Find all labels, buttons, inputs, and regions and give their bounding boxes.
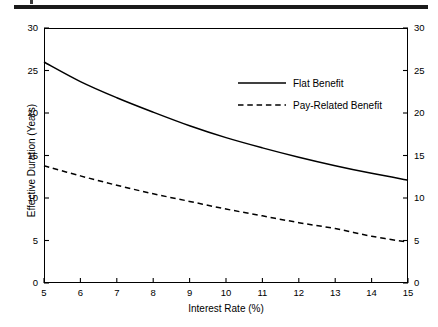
y-tick-label-right-30: 30 bbox=[414, 23, 438, 33]
x-tick-label-15: 15 bbox=[396, 288, 420, 298]
y-tick-label-right-10: 10 bbox=[414, 193, 438, 203]
y-tick-label-left-0: 0 bbox=[8, 278, 38, 288]
x-tick-label-13: 13 bbox=[323, 288, 347, 298]
y-tick-label-left-25: 25 bbox=[8, 66, 38, 76]
y-tick-label-right-0: 0 bbox=[414, 278, 438, 288]
legend-item-flat-benefit: Flat Benefit bbox=[238, 72, 398, 94]
x-tick-label-10: 10 bbox=[214, 288, 238, 298]
x-tick-label-6: 6 bbox=[68, 288, 92, 298]
legend-dashed-line-icon bbox=[238, 100, 286, 110]
chart-legend: Flat Benefit Pay-Related Benefit bbox=[238, 72, 398, 116]
y-tick-label-right-20: 20 bbox=[414, 108, 438, 118]
x-tick-label-11: 11 bbox=[250, 288, 274, 298]
legend-item-pay-related-benefit: Pay-Related Benefit bbox=[238, 94, 398, 116]
legend-label-flat-benefit: Flat Benefit bbox=[293, 78, 344, 89]
legend-label-pay-related-benefit: Pay-Related Benefit bbox=[293, 100, 382, 111]
x-tick-label-14: 14 bbox=[360, 288, 384, 298]
y-tick-label-right-15: 15 bbox=[414, 151, 438, 161]
x-tick-label-7: 7 bbox=[105, 288, 129, 298]
x-tick-label-8: 8 bbox=[141, 288, 165, 298]
y-tick-label-left-30: 30 bbox=[8, 23, 38, 33]
x-tick-label-9: 9 bbox=[178, 288, 202, 298]
chart-figure: 051015202530 051015202530 56789101112131… bbox=[0, 0, 438, 327]
x-tick-label-12: 12 bbox=[287, 288, 311, 298]
y-axis-title: Effective Duration (Years) bbox=[26, 81, 37, 241]
legend-solid-line-icon bbox=[238, 78, 286, 88]
y-tick-label-right-25: 25 bbox=[414, 66, 438, 76]
x-tick-label-5: 5 bbox=[32, 288, 56, 298]
x-axis-title: Interest Rate (%) bbox=[44, 303, 408, 314]
plot-area-frame bbox=[44, 28, 408, 283]
y-tick-label-right-5: 5 bbox=[414, 236, 438, 246]
